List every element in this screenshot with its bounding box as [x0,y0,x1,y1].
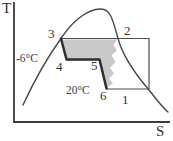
x-axis-label-S: S [156,123,164,139]
ts-diagram-canvas: T S 1 2 3 4 5 6 -6°C 20°C [0,0,173,141]
y-axis-label-T: T [2,0,11,16]
state-point-1-label: 1 [122,92,129,107]
state-point-4-label: 4 [56,59,63,74]
temperature-label-lower: 20°C [66,84,90,96]
state-point-2-label: 2 [124,23,131,38]
temperature-label-upper: -6°C [16,52,38,64]
state-point-5-label: 5 [91,58,98,73]
state-point-6-label: 6 [100,88,107,103]
state-point-3-label: 3 [48,26,55,41]
shaded-heat-region [63,40,118,88]
ts-diagram: T S 1 2 3 4 5 6 -6°C 20°C [0,0,173,141]
